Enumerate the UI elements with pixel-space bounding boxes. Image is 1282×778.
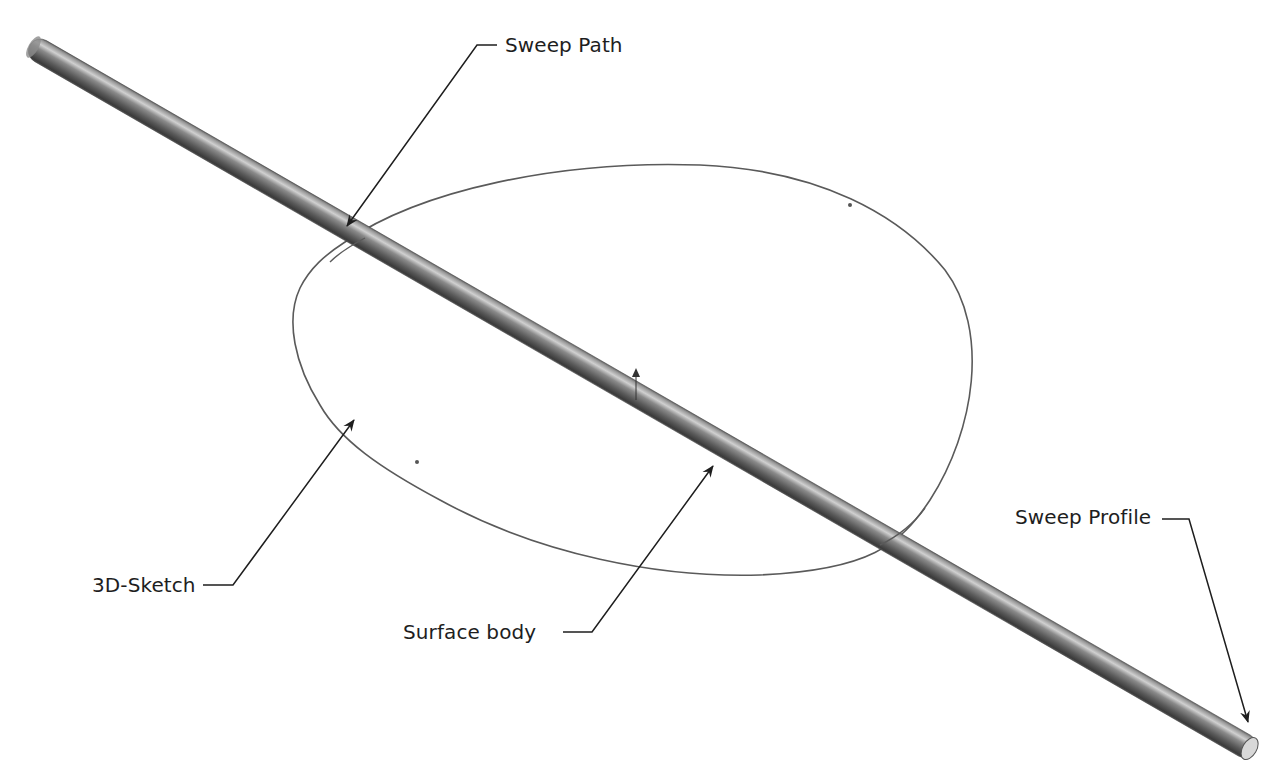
swept-rod (23, 34, 1262, 762)
leader-sweep-path (347, 45, 497, 226)
sketch-curve-3d (293, 164, 972, 575)
sketch-point (848, 203, 852, 207)
sweep-diagram-canvas (0, 0, 1282, 778)
leader-3d-sketch (203, 420, 354, 585)
label-surface-body: Surface body (403, 620, 536, 644)
leader-surface-body (563, 466, 713, 632)
sketch-point (415, 460, 419, 464)
label-sweep-profile: Sweep Profile (1015, 505, 1151, 529)
label-sweep-path: Sweep Path (505, 33, 623, 57)
label-3d-sketch: 3D-Sketch (92, 573, 196, 597)
